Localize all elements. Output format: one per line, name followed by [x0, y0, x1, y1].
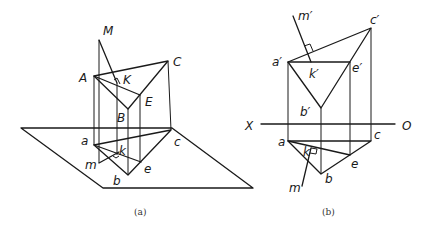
label-A: A [78, 71, 87, 85]
label-e: e [144, 162, 151, 176]
projection-diagram: M A C K E B a c k m e b (a) m′ c′ a [0, 0, 425, 234]
caption-b: (b) [322, 207, 335, 217]
label-m-prime: m′ [298, 9, 313, 23]
label-b-top: b [325, 172, 333, 186]
label-X: X [244, 119, 254, 133]
label-m: m [85, 158, 97, 172]
caption-a: (a) [134, 207, 146, 217]
figure-a: M A C K E B a c k m e b (a) [21, 24, 253, 217]
label-a-top: a [278, 135, 285, 149]
label-a: a [81, 134, 88, 148]
label-O: O [402, 119, 411, 133]
label-k-prime: k′ [309, 67, 319, 81]
label-m-top: m [289, 181, 301, 195]
triangle-ABC [94, 61, 168, 109]
label-k: k [119, 144, 127, 158]
label-a-prime: a′ [272, 55, 282, 69]
label-b-prime: b′ [300, 105, 311, 119]
triangle-abc-top [288, 141, 371, 174]
figure-b: m′ c′ a′ k′ e′ b′ X O a c k e b m (b) [244, 9, 411, 217]
label-k-top: k [303, 145, 311, 159]
label-b: b [113, 174, 121, 188]
line-ae-top [288, 141, 350, 155]
projector-C [168, 61, 171, 130]
triangle-abc [94, 130, 171, 175]
label-M: M [103, 24, 114, 38]
label-c-top: c [374, 128, 381, 142]
line-MK [99, 40, 117, 83]
label-e-top: e [351, 157, 358, 171]
label-c: c [174, 135, 181, 149]
label-E: E [145, 95, 153, 109]
label-B: B [117, 111, 125, 125]
label-e-prime: e′ [352, 61, 362, 75]
label-c-prime: c′ [370, 13, 380, 27]
label-K: K [123, 73, 132, 87]
label-C: C [173, 55, 182, 69]
